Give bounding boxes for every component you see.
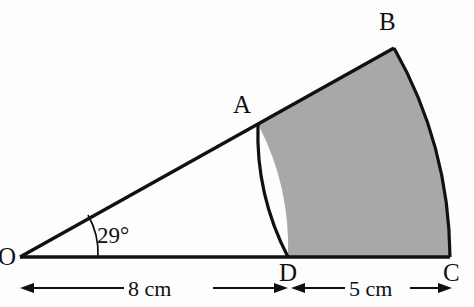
vertex-label-o: O xyxy=(0,243,16,270)
dimension-5cm-label: 5 cm xyxy=(349,276,392,301)
geometry-figure: O A B D C 29° 8 cm 5 cm xyxy=(0,0,474,307)
dimension-8cm: 8 cm xyxy=(20,276,288,301)
vertex-label-b: B xyxy=(379,8,396,35)
angle-value-label: 29° xyxy=(97,223,129,248)
dimension-5cm: 5 cm xyxy=(291,276,452,301)
geometry-diagram-svg: O A B D C 29° 8 cm 5 cm xyxy=(0,0,474,307)
shaded-annular-sector xyxy=(258,48,450,257)
vertex-label-d: D xyxy=(279,259,297,286)
vertex-label-c: C xyxy=(443,259,460,286)
dimension-8cm-label: 8 cm xyxy=(128,276,171,301)
vertex-label-a: A xyxy=(233,91,251,118)
dimension-8cm-arrow-left xyxy=(20,283,34,293)
